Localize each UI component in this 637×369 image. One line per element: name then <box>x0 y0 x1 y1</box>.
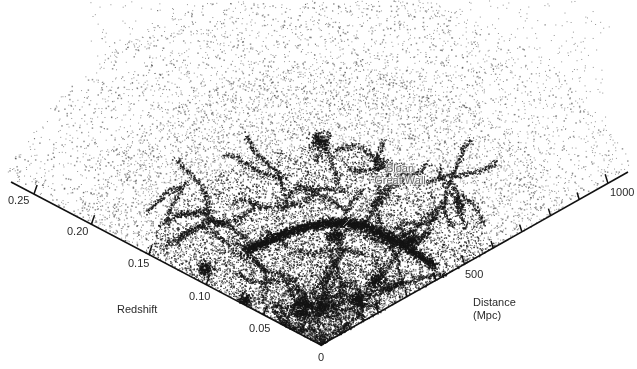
redshift-tick-label: 0.10 <box>189 291 210 302</box>
sloan-great-wall-annotation: Sloan Great Wall <box>369 162 431 186</box>
axis-tick <box>206 276 209 285</box>
axis-tick <box>548 209 550 216</box>
annotation-line1: Sloan <box>369 162 431 174</box>
axis-tick <box>491 241 493 248</box>
axis-tick <box>149 245 152 254</box>
galaxy-wedge-figure: 0.25 0.20 0.15 0.10 0.05 0 500 1000 Reds… <box>0 0 637 369</box>
axis-tick <box>91 215 94 224</box>
distance-axis-title-line2: (Mpc) <box>473 309 516 322</box>
axis-tick <box>520 225 522 232</box>
redshift-axis-title: Redshift <box>117 303 157 316</box>
axis-tick <box>577 192 579 199</box>
redshift-axis-ticks <box>34 185 267 315</box>
axis-tick <box>605 174 608 183</box>
axis-tick <box>348 322 350 329</box>
distance-tick-label: 1000 <box>610 187 634 198</box>
annotation-line2: Great Wall <box>369 174 431 186</box>
axis-tick <box>462 255 465 264</box>
annotation-leader-line <box>343 186 382 226</box>
distance-tick-label: 500 <box>465 269 483 280</box>
redshift-tick-label: 0.05 <box>249 323 270 334</box>
distance-axis-title-line1: Distance <box>473 296 516 309</box>
redshift-tick-label: 0.20 <box>67 226 88 237</box>
distance-axis-title: Distance (Mpc) <box>473 296 516 322</box>
axis-tick <box>405 289 407 296</box>
axes-layer <box>0 0 637 369</box>
axis-tick <box>264 306 267 315</box>
axis-tick <box>34 185 37 194</box>
redshift-tick-label: 0.15 <box>128 258 149 269</box>
axis-tick <box>376 306 378 313</box>
redshift-axis-line <box>11 182 321 345</box>
axis-tick <box>434 273 436 280</box>
redshift-tick-label: 0.25 <box>8 195 29 206</box>
origin-label: 0 <box>318 352 324 363</box>
